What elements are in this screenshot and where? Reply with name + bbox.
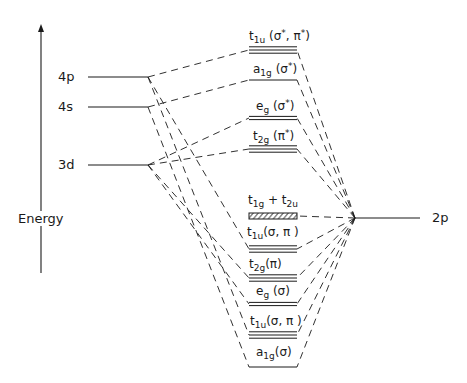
correlation-2p-t1g_t2u [297, 216, 355, 218]
correlation-2p-t1u_b2 [297, 218, 355, 335]
correlation-2p-a1g_b [297, 218, 355, 367]
mo-label-t1u_star: t1u (σ*, π*) [249, 29, 310, 45]
correlation-2p-t1u_b1 [297, 218, 355, 249]
correlation-4p-t1u_b2 [148, 77, 249, 335]
correlation-2p-a1g_star [297, 80, 355, 218]
mo-label-t1u_b1: t1u(σ, π ) [247, 226, 299, 241]
correlation-3d-t2g_b [148, 165, 249, 278]
ligand-label-2p: 2p [432, 211, 449, 224]
correlation-2p-t2g_star [297, 149, 355, 218]
mo-label-eg_star: eg (σ*) [256, 99, 294, 115]
mo-level-t1g_t2u [249, 213, 297, 219]
mo-label-a1g_b: a1g(σ) [256, 346, 292, 361]
correlation-3d-eg_b [148, 165, 249, 304]
correlation-4s-a1g_b [148, 107, 249, 367]
correlation-3d-eg_star [148, 118, 249, 165]
mo-label-a1g_star: a1g (σ*) [253, 62, 297, 78]
metal-label-3d: 3d [58, 158, 75, 171]
mo-label-t1g_t2u: t1g + t2u [248, 194, 298, 209]
correlation-2p-t2g_b [297, 218, 355, 278]
energy-axis [38, 24, 44, 273]
mo-diagram [0, 0, 467, 383]
correlation-4p-t1u_star [148, 50, 249, 77]
correlation-2p-eg_b [297, 218, 355, 304]
mo-label-t2g_b: t2g(π) [249, 258, 282, 273]
mo-label-t2g_star: t2g (π*) [253, 129, 294, 145]
energy-axis-label: Energy [17, 211, 65, 226]
metal-label-4s: 4s [58, 100, 73, 113]
mo-label-t1u_b2: t1u(σ, π ) [250, 315, 302, 330]
correlation-2p-t1u_star [297, 50, 355, 218]
metal-label-4p: 4p [58, 70, 75, 83]
mo-label-eg_b: eg (σ) [256, 285, 290, 300]
arrow-up-icon [38, 24, 44, 32]
